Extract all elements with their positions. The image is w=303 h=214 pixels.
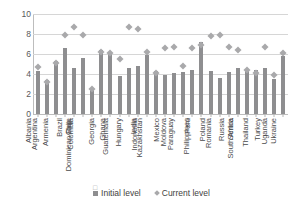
chart-column[interactable] <box>151 14 160 114</box>
marker-current-level[interactable] <box>198 41 205 48</box>
bar-initial-level[interactable] <box>127 68 131 114</box>
bar-initial-level[interactable] <box>145 55 149 114</box>
chart-column[interactable] <box>279 14 288 114</box>
legend-diamond-swatch-icon <box>154 190 160 196</box>
bar-initial-level[interactable] <box>72 68 76 114</box>
chart-column[interactable] <box>142 14 151 114</box>
bar-initial-level[interactable] <box>227 72 231 114</box>
bar-initial-level[interactable] <box>63 48 67 114</box>
bar-initial-level[interactable] <box>236 68 240 114</box>
marker-current-level[interactable] <box>98 48 105 55</box>
bar-initial-level[interactable] <box>36 71 40 114</box>
x-axis-tick <box>73 114 74 117</box>
marker-current-level[interactable] <box>107 49 114 56</box>
x-axis-category-labels: AlbaniaArgentinaArmeniaBrazilChileColomb… <box>33 118 288 184</box>
marker-current-level[interactable] <box>280 49 287 56</box>
chart-column[interactable] <box>224 14 233 114</box>
bar-initial-level[interactable] <box>218 78 222 114</box>
bar-initial-level[interactable] <box>181 72 185 114</box>
chart-column[interactable] <box>170 14 179 114</box>
x-axis-tick <box>274 114 275 117</box>
chart-column[interactable] <box>252 14 261 114</box>
chart-column[interactable] <box>97 14 106 114</box>
chart-column[interactable] <box>51 14 60 114</box>
chart-column[interactable] <box>133 14 142 114</box>
bar-initial-level[interactable] <box>99 50 103 114</box>
bar-initial-level[interactable] <box>254 70 258 114</box>
chart-column[interactable] <box>197 14 206 114</box>
bar-initial-level[interactable] <box>272 79 276 114</box>
chart-column[interactable] <box>88 14 97 114</box>
chart-column[interactable] <box>115 14 124 114</box>
marker-current-level[interactable] <box>34 63 41 70</box>
bar-initial-level[interactable] <box>54 61 58 114</box>
marker-current-level[interactable] <box>189 44 196 51</box>
marker-current-level[interactable] <box>216 31 223 38</box>
bar-initial-level[interactable] <box>281 56 285 114</box>
chart-column[interactable] <box>69 14 78 114</box>
bar-initial-level[interactable] <box>263 68 267 114</box>
bar-initial-level[interactable] <box>108 52 112 114</box>
chart-column[interactable] <box>233 14 242 114</box>
marker-current-level[interactable] <box>143 48 150 55</box>
bar-initial-level[interactable] <box>199 42 203 114</box>
chart-column[interactable] <box>261 14 270 114</box>
bar-initial-level[interactable] <box>81 58 85 114</box>
bar-initial-level[interactable] <box>136 66 140 114</box>
marker-current-level[interactable] <box>271 71 278 78</box>
marker-current-level[interactable] <box>180 62 187 69</box>
marker-current-level[interactable] <box>243 66 250 73</box>
x-axis-category-label: Dominican Rep. <box>66 118 74 171</box>
marker-current-level[interactable] <box>162 44 169 51</box>
bar-initial-level[interactable] <box>172 73 176 114</box>
bar-initial-level[interactable] <box>245 71 249 114</box>
marker-current-level[interactable] <box>225 43 232 50</box>
chart-column[interactable] <box>33 14 42 114</box>
marker-current-level[interactable] <box>253 69 260 76</box>
plot-area <box>33 14 288 114</box>
chart-column[interactable] <box>242 14 251 114</box>
chart-column[interactable] <box>188 14 197 114</box>
x-axis-category-label: Georgia <box>88 118 96 145</box>
chart-column[interactable] <box>215 14 224 114</box>
bar-initial-level[interactable] <box>154 71 158 114</box>
marker-current-level[interactable] <box>152 69 159 76</box>
bar-initial-level[interactable] <box>190 70 194 114</box>
marker-current-level[interactable] <box>134 25 141 32</box>
chart-column[interactable] <box>42 14 51 114</box>
chart-column[interactable] <box>179 14 188 114</box>
marker-current-level[interactable] <box>125 23 132 30</box>
chart-legend: Initial level Current level <box>0 188 303 198</box>
marker-current-level[interactable] <box>80 31 87 38</box>
marker-current-level[interactable] <box>234 46 241 53</box>
marker-current-level[interactable] <box>70 23 77 30</box>
chart-column[interactable] <box>79 14 88 114</box>
chart-container: 0246810 AlbaniaArgentinaArmeniaBrazilChi… <box>0 0 303 214</box>
marker-current-level[interactable] <box>207 32 214 39</box>
x-axis-category-label: Armenia <box>42 118 50 146</box>
chart-column[interactable] <box>206 14 215 114</box>
bar-initial-level[interactable] <box>209 71 213 114</box>
chart-column[interactable] <box>161 14 170 114</box>
x-axis-tick <box>55 114 56 117</box>
chart-column[interactable] <box>60 14 69 114</box>
legend-item-current-level[interactable]: Current level <box>155 188 210 198</box>
marker-current-level[interactable] <box>89 85 96 92</box>
chart-column[interactable] <box>124 14 133 114</box>
marker-current-level[interactable] <box>262 43 269 50</box>
marker-current-level[interactable] <box>61 31 68 38</box>
chart-column[interactable] <box>106 14 115 114</box>
bar-initial-level[interactable] <box>163 75 167 114</box>
x-axis-tick <box>247 114 248 117</box>
bar-initial-level[interactable] <box>118 76 122 114</box>
x-axis-category-label: Hungary <box>114 118 122 146</box>
marker-current-level[interactable] <box>116 55 123 62</box>
chart-column[interactable] <box>270 14 279 114</box>
marker-current-level[interactable] <box>171 43 178 50</box>
legend-item-initial-level[interactable]: Initial level <box>93 188 141 198</box>
stray-box-glyph: □ <box>93 184 97 191</box>
x-axis-tick <box>210 114 211 117</box>
x-axis-tick <box>219 114 220 117</box>
y-axis-tick-label: 4 <box>3 70 31 79</box>
x-axis-category-label: Guatemala <box>101 118 109 155</box>
